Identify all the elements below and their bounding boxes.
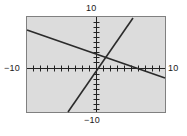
axis-label-top: 10 xyxy=(86,4,96,13)
axis-label-bottom: −10 xyxy=(84,116,100,125)
graph-figure: 10 −10 −10 10 xyxy=(0,0,187,136)
axis-label-left: −10 xyxy=(4,64,20,73)
axis-label-right: 10 xyxy=(168,64,178,73)
